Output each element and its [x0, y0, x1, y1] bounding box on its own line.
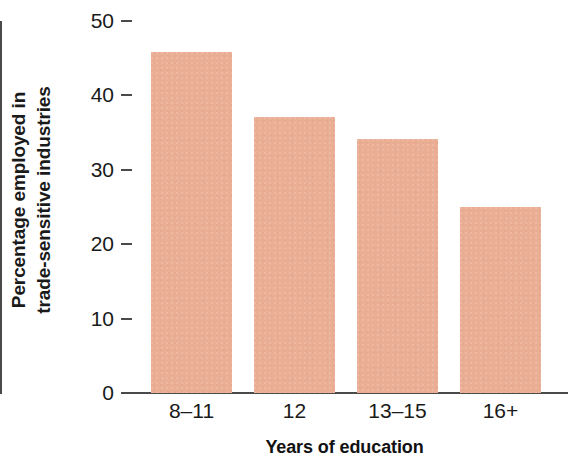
y-axis-tick-label: 20 [68, 233, 114, 254]
y-axis-title: Percentage employed in trade-sensitive i… [0, 0, 62, 400]
bar-series [121, 0, 568, 393]
x-axis-tick-label: 16+ [460, 400, 541, 421]
y-axis-title-line-2: trade-sensitive industries [31, 86, 56, 314]
bar [254, 117, 335, 393]
bar [460, 207, 541, 393]
y-axis-line [0, 21, 2, 394]
x-axis-tick-labels: 8–111213–1516+ [121, 400, 568, 430]
bar-chart-figure: Percentage employed in trade-sensitive i… [0, 0, 568, 463]
x-axis-tick-label: 13–15 [357, 400, 438, 421]
y-axis-tick-label: 0 [68, 382, 114, 403]
x-axis-title: Years of education [121, 438, 568, 456]
y-axis-title-text: Percentage employed in trade-sensitive i… [6, 86, 56, 314]
x-axis-tick-label: 8–11 [151, 400, 232, 421]
y-axis-tick-label: 40 [68, 84, 114, 105]
x-axis-tick-label: 12 [254, 400, 335, 421]
bar [357, 139, 438, 393]
y-axis-tick-label: 10 [68, 308, 114, 329]
y-axis-tick-labels: 01020304050 [58, 0, 114, 463]
bar [151, 52, 232, 393]
y-axis-title-line-1: Percentage employed in [6, 86, 31, 314]
y-axis-tick-label: 30 [68, 159, 114, 180]
y-axis-tick-label: 50 [68, 10, 114, 31]
